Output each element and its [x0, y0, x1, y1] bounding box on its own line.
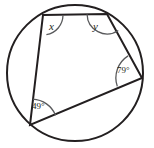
angle-label-49: 49°: [32, 102, 45, 111]
angle-label-y: y: [93, 21, 98, 32]
angle-label-79: 79°: [117, 66, 130, 75]
geometry-canvas: [0, 0, 154, 148]
geometry-figure: x y 79° 49°: [0, 0, 154, 148]
angle-label-x: x: [49, 21, 54, 32]
